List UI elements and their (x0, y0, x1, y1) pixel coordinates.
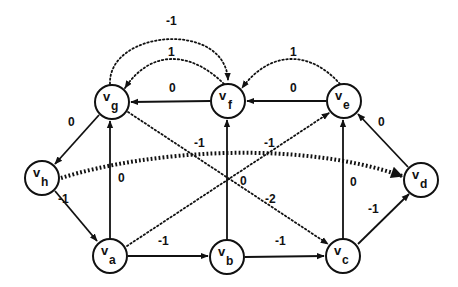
node-b: v b (210, 240, 244, 274)
label-b-f: 0 (240, 174, 247, 188)
label-h-a: -1 (58, 192, 69, 206)
node-h-sub: h (41, 175, 48, 189)
edge-b-to-c (245, 256, 324, 257)
label-a-b: -1 (158, 234, 169, 248)
node-h-main: v (33, 165, 41, 180)
edge-f-to-g (131, 101, 210, 102)
label-g-h: 0 (68, 115, 75, 129)
label-d-e: 0 (378, 115, 385, 129)
edge-g-to-c (128, 112, 328, 244)
node-e-main: v (335, 88, 343, 103)
node-f: v f (211, 84, 245, 118)
label-e-f-arc: 1 (290, 45, 297, 59)
dotted-edges (110, 39, 340, 246)
node-c-sub: c (342, 253, 349, 267)
node-d-sub: d (420, 177, 427, 191)
edge-c-to-d (358, 194, 409, 244)
label-g-c-upper: -1 (194, 136, 205, 150)
node-d: v d (404, 163, 438, 197)
node-a-main: v (101, 243, 109, 258)
graph-diagram: -1 1 1 0 0 0 0 -1 0 -1 -1 0 -2 0 -1 -1 -… (0, 0, 458, 287)
node-a: v a (93, 239, 127, 273)
node-c-main: v (334, 243, 342, 258)
edge-g-to-h (55, 115, 99, 164)
node-c: v c (326, 239, 360, 273)
node-g-main: v (103, 89, 111, 104)
node-f-main: v (219, 88, 227, 103)
label-c-e: 0 (350, 175, 357, 189)
label-f-g-arc: 1 (168, 45, 175, 59)
label-c-d: -1 (368, 202, 379, 216)
node-a-sub: a (109, 253, 116, 267)
label-g-f-top: -1 (166, 14, 177, 28)
node-g: v g (95, 85, 129, 119)
label-g-c: -2 (265, 192, 276, 206)
label-e-f: 0 (290, 81, 297, 95)
edge-labels: -1 1 1 0 0 0 0 -1 0 -1 -1 0 -2 0 -1 -1 -… (58, 14, 385, 248)
node-b-sub: b (226, 254, 233, 268)
node-h: v h (25, 161, 59, 195)
node-d-main: v (412, 167, 420, 182)
node-e: v e (327, 84, 361, 118)
node-e-sub: e (343, 98, 350, 112)
label-b-c: -1 (275, 234, 286, 248)
label-f-g: 0 (169, 81, 176, 95)
node-b-main: v (218, 244, 226, 259)
label-a-g: 0 (118, 171, 125, 185)
edge-a-to-e (127, 113, 329, 246)
label-a-e: -1 (264, 136, 275, 150)
node-g-sub: g (111, 99, 118, 113)
